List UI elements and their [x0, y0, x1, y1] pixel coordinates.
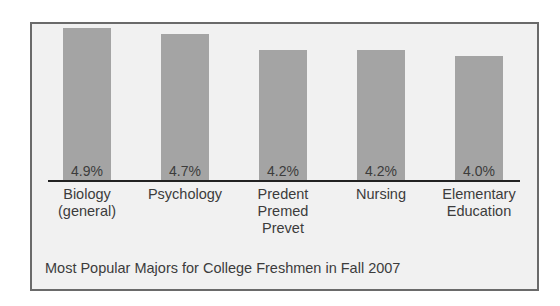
x-axis-baseline — [48, 180, 520, 182]
category-label: Nursing — [333, 186, 429, 203]
bar: 4.7% — [161, 34, 209, 180]
category-label: Predent Premed Prevet — [235, 186, 331, 237]
bar-value-label: 4.9% — [63, 163, 111, 179]
category-label: Biology (general) — [39, 186, 135, 220]
category-label: Psychology — [137, 186, 233, 203]
chart-frame: 4.9%4.7%4.2%4.2%4.0% Biology (general)Ps… — [30, 22, 539, 291]
bar-value-label: 4.2% — [357, 163, 405, 179]
bar: 4.0% — [455, 56, 503, 180]
bar-value-label: 4.2% — [259, 163, 307, 179]
bar-value-label: 4.0% — [455, 163, 503, 179]
bar: 4.2% — [357, 50, 405, 180]
bar-value-label: 4.7% — [161, 163, 209, 179]
category-label: Elementary Education — [431, 186, 527, 220]
chart-title: Most Popular Majors for College Freshmen… — [45, 260, 400, 276]
bar: 4.9% — [63, 28, 111, 180]
bar: 4.2% — [259, 50, 307, 180]
